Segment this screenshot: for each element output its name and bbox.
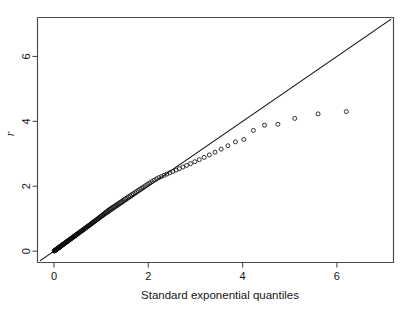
plot-canvas: 0246 0246 Standard exponential quantiles… bbox=[0, 0, 404, 313]
y-tick-label: 4 bbox=[21, 118, 33, 124]
y-tick-label: 6 bbox=[21, 53, 33, 59]
x-tick-label: 2 bbox=[145, 270, 151, 282]
x-tick-label: 4 bbox=[240, 270, 246, 282]
x-tick-label: 0 bbox=[51, 270, 57, 282]
y-tick-label: 0 bbox=[21, 248, 33, 254]
x-tick-label: 6 bbox=[334, 270, 340, 282]
y-tick-label: 2 bbox=[21, 183, 33, 189]
y-axis-title: r bbox=[3, 131, 17, 136]
x-axis-title: Standard exponential quantiles bbox=[141, 289, 299, 301]
qq-plot-figure: 0246 0246 Standard exponential quantiles… bbox=[0, 0, 404, 313]
